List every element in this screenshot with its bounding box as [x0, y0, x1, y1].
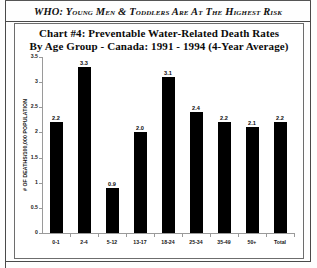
x-axis-tick [154, 233, 155, 237]
chart-title-line2: By Age Group - Canada: 1991 - 1994 (4-Ye… [15, 40, 303, 53]
y-axis-tick [39, 57, 43, 58]
x-axis-tick [182, 233, 183, 237]
y-axis-tick [39, 82, 43, 83]
header-divider [5, 21, 311, 22]
x-axis-category-label: 2-4 [80, 239, 88, 245]
bar-value-label: 3.1 [164, 70, 172, 76]
chart-title: Chart #4: Preventable Water-Related Deat… [15, 27, 303, 53]
bar-value-label: 0.9 [108, 181, 116, 187]
y-axis-tick [39, 158, 43, 159]
x-axis-category-label: 18-24 [161, 239, 174, 245]
bar: 2.1 [246, 127, 259, 233]
x-axis-tick [70, 233, 71, 237]
frame-border-right [310, 0, 311, 262]
bar-value-label: 2.2 [220, 115, 228, 121]
x-axis-tick [98, 233, 99, 237]
x-axis-category-label: 0-1 [52, 239, 60, 245]
y-axis-tick-label: 1 [20, 179, 38, 185]
y-axis-title-text: # OF DEATHS/100,000 POPULATION [22, 99, 28, 191]
chart-container: Chart #4: Preventable Water-Related Deat… [14, 23, 304, 259]
x-axis-line [42, 233, 294, 234]
x-axis-tick [126, 233, 127, 237]
x-axis-tick [266, 233, 267, 237]
y-axis-tick [39, 107, 43, 108]
y-axis-tick [39, 208, 43, 209]
x-axis-tick [238, 233, 239, 237]
x-axis-category-label: 5-12 [107, 239, 117, 245]
bar: 0.9 [106, 188, 119, 233]
frame-border-left [5, 0, 6, 268]
bar: 2.4 [190, 112, 203, 233]
y-axis-tick-label: 0.5 [20, 204, 38, 210]
x-axis-category-label: 25-34 [189, 239, 202, 245]
bar: 2.2 [218, 122, 231, 233]
x-axis-category-label: 35-49 [217, 239, 230, 245]
bar: 2.2 [50, 122, 63, 233]
chart-title-line1: Chart #4: Preventable Water-Related Deat… [39, 27, 279, 39]
y-axis-tick-label: 2.5 [20, 103, 38, 109]
y-axis-tick [39, 233, 43, 234]
y-axis-tick-label: 3.5 [20, 53, 38, 59]
y-axis-tick-label: 1.5 [20, 154, 38, 160]
y-axis-tick-label: 3 [20, 78, 38, 84]
plot-area: 00.511.522.533.52.20-13.32-40.95-122.013… [42, 57, 294, 233]
y-axis-line [42, 57, 43, 233]
x-axis-category-label: Total [274, 239, 286, 245]
chart-page: WHO: Young Men & Toddlers Are At The Hig… [0, 0, 317, 268]
y-axis-tick-label: 2 [20, 128, 38, 134]
bar-value-label: 2.4 [192, 105, 200, 111]
x-axis-category-label: 13-17 [133, 239, 146, 245]
frame-border-bottom [5, 261, 311, 262]
bar-value-label: 2.2 [52, 115, 60, 121]
bar-value-label: 2.2 [276, 115, 284, 121]
bar: 2.2 [274, 122, 287, 233]
headline-text: WHO: Young Men & Toddlers Are At The Hig… [34, 6, 282, 17]
bar-value-label: 2.1 [248, 120, 256, 126]
bar: 2.0 [134, 132, 147, 233]
x-axis-tick [210, 233, 211, 237]
y-axis-tick [39, 132, 43, 133]
bar-value-label: 2.0 [136, 125, 144, 131]
headline-banner: WHO: Young Men & Toddlers Are At The Hig… [6, 1, 310, 21]
x-axis-category-label: 50+ [248, 239, 257, 245]
bar: 3.3 [78, 67, 91, 233]
y-axis-tick [39, 183, 43, 184]
x-axis-tick [294, 233, 295, 237]
y-axis-tick-label: 0 [20, 229, 38, 235]
bar: 3.1 [162, 77, 175, 233]
bar-value-label: 3.3 [80, 60, 88, 66]
